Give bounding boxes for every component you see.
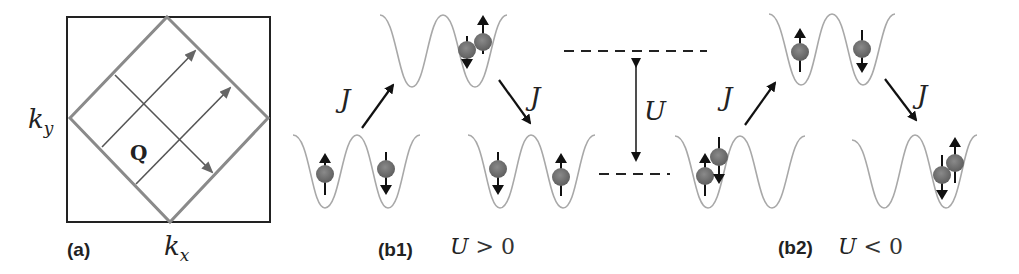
- double-well-left-b1: [293, 135, 420, 208]
- spin-down-right-b1: [489, 152, 507, 190]
- grid-line-ne-2: [136, 88, 230, 184]
- double-well-top-b2: [769, 14, 895, 85]
- figure-canvas: Q ky kx (a): [0, 0, 1019, 274]
- condition-b1: U > 0: [450, 234, 515, 259]
- interaction-energy-scale: U: [564, 51, 707, 174]
- panel-b1-repulsive: J J (b1) U > 0: [293, 15, 595, 260]
- hop-label-left-b2: J: [717, 82, 734, 112]
- spin-up-top-b2: [791, 33, 809, 72]
- hop-label-left-b1: J: [335, 84, 352, 114]
- panel-b2-attractive: J J (b2) U < 0: [675, 14, 977, 259]
- double-well-right-b1: [468, 135, 595, 208]
- hop-arrow-right-b1: [499, 80, 530, 123]
- double-well-top-b1: [380, 15, 507, 87]
- ky-axis-label: ky: [28, 104, 54, 138]
- hop-arrow-left-b1: [362, 85, 393, 128]
- panel-a-brillouin-zone: Q ky kx (a): [28, 17, 270, 265]
- panel-b2-label: (b2): [778, 237, 813, 258]
- spin-pair-right-b2: [933, 142, 964, 195]
- spin-up-left-b1: [316, 158, 334, 195]
- panel-a-label: (a): [67, 239, 90, 260]
- hop-label-right-b1: J: [525, 82, 542, 112]
- grid-line-ne-1: [102, 51, 195, 147]
- spin-down-top-b2: [853, 30, 871, 68]
- hop-arrow-left-b2: [745, 83, 775, 125]
- hop-label-right-b2: J: [912, 80, 929, 110]
- kx-axis-label: kx: [164, 231, 190, 265]
- u-label: U: [644, 96, 667, 126]
- spin-down-left-b1: [377, 152, 395, 190]
- nesting-vector-label: Q: [130, 141, 147, 165]
- hop-arrow-right-b2: [885, 79, 916, 120]
- spin-pair-top-b1: [458, 20, 492, 64]
- double-well-left-b2: [675, 136, 805, 208]
- panel-b1-label: (b1): [378, 239, 413, 260]
- magnetic-zone-diamond: [70, 17, 268, 222]
- outer-zone-box: [67, 17, 270, 222]
- condition-b2: U < 0: [838, 234, 903, 259]
- spin-up-right-b1: [552, 158, 570, 196]
- double-well-right-b2: [852, 135, 977, 208]
- spin-pair-left-b2: [696, 137, 728, 196]
